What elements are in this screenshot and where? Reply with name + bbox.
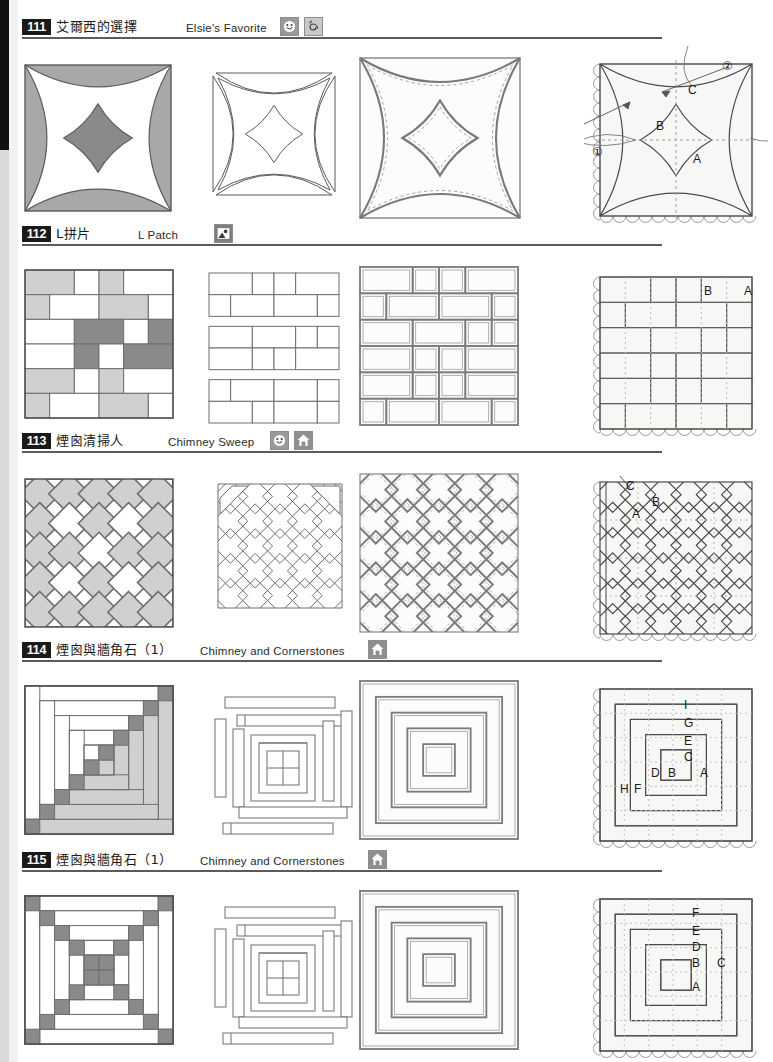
smile-icon (270, 431, 289, 450)
svg-text:D: D (651, 766, 660, 780)
svg-text:B: B (652, 495, 660, 509)
section-number-badge: 115 (22, 852, 51, 868)
quilting-lines-diagram (358, 889, 520, 1051)
section-number-badge: 113 (22, 433, 51, 449)
pattern-section-112: 112L拼片L PatchBA (18, 225, 773, 251)
quilting-lines-diagram (358, 679, 520, 841)
pattern-section-114: 114煙囪與牆角石（1）Chimney and CornerstonesIGEC… (18, 641, 773, 667)
svg-text:F: F (692, 906, 699, 920)
svg-text:B: B (656, 119, 664, 133)
quilting-lines-diagram (358, 472, 520, 634)
section-header: 111艾爾西的選擇Elsie's Favorite (18, 18, 773, 44)
svg-text:A: A (700, 766, 708, 780)
svg-text:F: F (634, 782, 641, 796)
section-title-english: Chimney and Cornerstones (200, 643, 345, 659)
section-title-chinese: 煙囪清掃人 (56, 432, 124, 450)
section-rule (22, 244, 662, 246)
section-number-badge: 111 (22, 19, 51, 35)
book-page-sheet: 111艾爾西的選擇Elsie's FavoriteCBA②①112L拼片L Pa… (18, 0, 773, 1062)
house-icon (368, 850, 387, 869)
section-icon-group (368, 850, 387, 869)
section-icon-group (280, 17, 323, 36)
section-title-english: Elsie's Favorite (186, 20, 267, 36)
spiral-icon (304, 17, 323, 36)
svg-text:②: ② (722, 59, 733, 73)
quilting-lines-diagram (358, 265, 520, 427)
section-icon-group (214, 224, 233, 243)
section-title-english: Chimney Sweep (168, 434, 254, 450)
piecing-units-diagram (202, 895, 362, 1055)
pieced-block-preview (24, 269, 174, 419)
section-number-badge: 112 (22, 226, 51, 242)
house-icon (294, 431, 313, 450)
svg-text:A: A (692, 980, 700, 994)
svg-text:B: B (692, 956, 700, 970)
section-title-chinese: 煙囪與牆角石（1） (56, 641, 173, 659)
svg-text:①: ① (592, 145, 603, 159)
svg-text:A: A (744, 284, 752, 298)
piecing-units-diagram (206, 66, 342, 202)
svg-text:B: B (704, 284, 712, 298)
pattern-section-111: 111艾爾西的選擇Elsie's FavoriteCBA②① (18, 18, 773, 44)
pattern-section-115: 115煙囪與牆角石（1）Chimney and CornerstonesFEDB… (18, 851, 773, 877)
pieced-block-preview (24, 895, 174, 1045)
section-title-chinese: 煙囪與牆角石（1） (56, 851, 173, 869)
svg-text:C: C (717, 956, 726, 970)
svg-text:C: C (626, 479, 635, 493)
pattern-section-113: 113煙囪清掃人Chimney SweepCBA (18, 432, 773, 458)
section-header: 112L拼片L Patch (18, 225, 773, 251)
section-header: 114煙囪與牆角石（1）Chimney and Cornerstones (18, 641, 773, 667)
template-labels-diagram: CBA②① (584, 42, 768, 238)
svg-text:I: I (684, 698, 687, 712)
house-icon (368, 640, 387, 659)
svg-text:E: E (684, 734, 692, 748)
pieced-block-preview (24, 64, 172, 212)
section-rule (22, 37, 662, 39)
template-labels-diagram: CBA (584, 470, 768, 652)
quilting-lines-diagram (358, 56, 522, 220)
svg-text:C: C (684, 750, 693, 764)
template-labels-diagram: FEDBCA (584, 893, 768, 1062)
page-left-edge-dark (0, 0, 9, 150)
svg-text:A: A (693, 152, 701, 166)
section-header: 115煙囪與牆角石（1）Chimney and Cornerstones (18, 851, 773, 877)
section-rule (22, 870, 662, 872)
pieced-block-preview (24, 685, 174, 835)
svg-text:E: E (692, 924, 700, 938)
section-header: 113煙囪清掃人Chimney Sweep (18, 432, 773, 458)
svg-text:A: A (632, 507, 640, 521)
svg-text:G: G (684, 716, 693, 730)
piecing-units-diagram (210, 478, 350, 618)
section-title-chinese: 艾爾西的選擇 (56, 18, 137, 36)
section-icon-group (368, 640, 387, 659)
section-icon-group (270, 431, 313, 450)
svg-text:B: B (668, 766, 676, 780)
template-labels-diagram: BA (584, 271, 768, 447)
template-labels-diagram: IGECDBAHF (584, 683, 768, 859)
page-left-edge (0, 0, 9, 1062)
page-gutter (9, 0, 18, 1062)
picture-icon (214, 224, 233, 243)
piecing-units-diagram (202, 685, 362, 845)
section-title-english: L Patch (138, 227, 178, 243)
section-title-english: Chimney and Cornerstones (200, 853, 345, 869)
pieced-block-preview (24, 478, 174, 628)
svg-text:D: D (692, 940, 701, 954)
section-rule (22, 660, 662, 662)
section-number-badge: 114 (22, 642, 51, 658)
svg-text:H: H (620, 782, 629, 796)
section-title-chinese: L拼片 (56, 225, 91, 243)
svg-text:C: C (688, 83, 697, 97)
section-rule (22, 451, 662, 453)
smile-icon (280, 17, 299, 36)
